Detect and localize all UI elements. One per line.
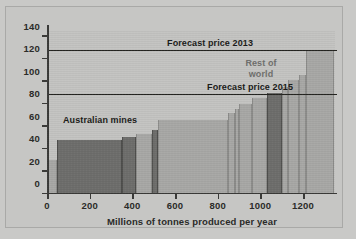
y-tick-120 bbox=[42, 58, 47, 60]
x-tick-label-800: 800 bbox=[209, 200, 225, 211]
x-tick-600 bbox=[175, 194, 177, 199]
bar-5 bbox=[158, 120, 228, 194]
y-axis bbox=[47, 25, 49, 194]
x-tick-1000 bbox=[260, 194, 262, 199]
bar-1 bbox=[57, 140, 121, 194]
y-tick-label-0: 0 bbox=[35, 178, 40, 189]
x-tick-1200 bbox=[303, 194, 305, 199]
rest-of-world-line1: Rest of bbox=[245, 58, 276, 69]
rest-of-world-annotation: Rest of world bbox=[245, 58, 276, 80]
x-tick-label-200: 200 bbox=[81, 200, 97, 211]
x-tick-800 bbox=[218, 194, 220, 199]
plot-area: Forecast price 2013Forecast price 2015 0… bbox=[47, 31, 335, 194]
australian-mines-annotation: Australian mines bbox=[63, 115, 137, 125]
bar-8 bbox=[239, 104, 252, 194]
forecast-price-2013-label: Forecast price 2013 bbox=[167, 38, 253, 48]
y-tick-20 bbox=[42, 170, 47, 172]
x-tick-label-400: 400 bbox=[124, 200, 140, 211]
x-tick-label-0: 0 bbox=[44, 200, 49, 211]
y-tick-label-140: 140 bbox=[24, 20, 40, 31]
forecast-price-2013-line bbox=[47, 50, 337, 52]
y-tick-80 bbox=[42, 103, 47, 105]
x-tick-label-1200: 1200 bbox=[292, 200, 314, 211]
y-tick-140 bbox=[42, 35, 47, 37]
x-tick-0 bbox=[47, 194, 49, 199]
x-tick-label-1000: 1000 bbox=[249, 200, 271, 211]
y-tick-label-100: 100 bbox=[24, 65, 40, 76]
bar-10 bbox=[267, 93, 282, 194]
bar-2 bbox=[122, 137, 136, 194]
y-tick-label-20: 20 bbox=[29, 155, 40, 166]
y-tick-label-80: 80 bbox=[29, 88, 40, 99]
x-axis-title: Millions of tonnes produced per year bbox=[47, 216, 337, 227]
forecast-price-2015-line bbox=[47, 94, 337, 96]
bar-12 bbox=[288, 80, 299, 194]
y-tick-40 bbox=[42, 148, 47, 150]
bar-3 bbox=[136, 134, 152, 194]
bar-14 bbox=[306, 51, 334, 194]
y-tick-60 bbox=[42, 125, 47, 127]
y-tick-100 bbox=[42, 80, 47, 82]
x-tick-label-600: 600 bbox=[167, 200, 183, 211]
chart-frame: Forecast price 2013Forecast price 2015 0… bbox=[5, 6, 343, 228]
y-tick-label-120: 120 bbox=[24, 43, 40, 54]
bar-9 bbox=[252, 98, 267, 194]
iron-ore-cost-curve-figure: Forecast price 2013Forecast price 2015 0… bbox=[0, 0, 356, 239]
bar-0 bbox=[47, 160, 57, 194]
x-tick-200 bbox=[90, 194, 92, 199]
forecast-price-2015-label: Forecast price 2015 bbox=[207, 82, 293, 92]
rest-of-world-line2: world bbox=[245, 69, 276, 80]
y-tick-label-40: 40 bbox=[29, 133, 40, 144]
x-tick-400 bbox=[132, 194, 134, 199]
y-tick-label-60: 60 bbox=[29, 110, 40, 121]
